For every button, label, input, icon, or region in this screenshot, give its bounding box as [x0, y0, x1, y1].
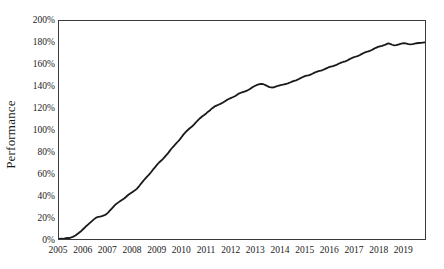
y-tick-label: 140% [14, 81, 55, 91]
y-tick-label: 200% [14, 15, 55, 25]
y-tick-label: 40% [14, 191, 55, 201]
performance-line-series [59, 21, 425, 239]
y-tick-label: 80% [14, 147, 55, 157]
series-polyline [59, 42, 425, 239]
y-tick-label: 160% [14, 59, 55, 69]
x-tick-label: 2019 [383, 244, 423, 256]
y-tick-label: 180% [14, 37, 55, 47]
y-axis-tick-labels: 200%180%160%140%120%100%80%60%40%20%0% [14, 20, 55, 240]
x-axis-tick-labels: 2005200620072008200920102011201220132014… [0, 244, 444, 260]
y-tick-label: 20% [14, 213, 55, 223]
y-tick-label: 60% [14, 169, 55, 179]
y-tick-label: 100% [14, 125, 55, 135]
chart-figure: Performance 200%180%160%140%120%100%80%6… [0, 0, 444, 269]
plot-area [58, 20, 426, 240]
y-tick-label: 120% [14, 103, 55, 113]
